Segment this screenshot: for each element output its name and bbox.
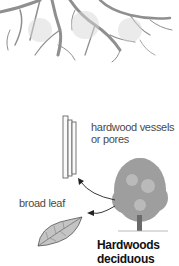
title-line1: Hardwoods [97,238,160,252]
hardwoods-title: Hardwoods deciduous [97,238,160,266]
broad-leaf-illustration [0,0,179,266]
title-line2: deciduous [97,252,160,266]
